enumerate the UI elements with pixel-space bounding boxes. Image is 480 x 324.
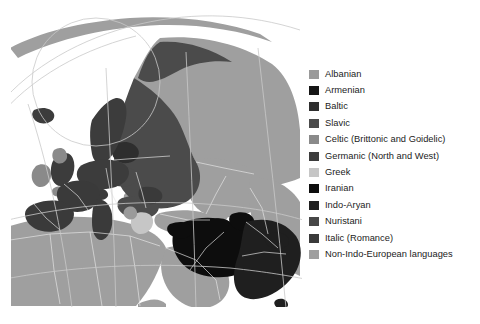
legend-swatch-nuristani xyxy=(308,216,320,227)
legend-item-slavic: Slavic xyxy=(308,115,478,131)
legend-label-germanic: Germanic (North and West) xyxy=(325,151,439,162)
legend-item-italic: Italic (Romance) xyxy=(308,230,478,246)
legend-swatch-albanian xyxy=(308,69,320,80)
legend-label-baltic: Baltic xyxy=(325,101,348,112)
legend-label-albanian: Albanian xyxy=(325,69,361,80)
legend-swatch-celtic xyxy=(308,134,320,145)
world-map-svg xyxy=(10,8,303,308)
legend-item-greek: Greek xyxy=(308,164,478,180)
legend-item-albanian: Albanian xyxy=(308,66,478,82)
legend-label-armenian: Armenian xyxy=(325,85,365,96)
map-panel xyxy=(10,8,303,308)
legend-label-nuristani: Nuristani xyxy=(325,216,362,227)
legend-label-italic: Italic (Romance) xyxy=(325,233,393,244)
legend-label-slavic: Slavic xyxy=(325,118,350,129)
legend-swatch-slavic xyxy=(308,118,320,129)
legend-label-iranian: Iranian xyxy=(325,183,354,194)
legend-swatch-baltic xyxy=(308,101,320,112)
legend-item-baltic: Baltic xyxy=(308,99,478,115)
legend-item-germanic: Germanic (North and West) xyxy=(308,148,478,164)
legend-item-iranian: Iranian xyxy=(308,181,478,197)
legend-item-non-indo-european: Non-Indo-European languages xyxy=(308,246,478,262)
legend-swatch-iranian xyxy=(308,183,320,194)
legend-label-greek: Greek xyxy=(325,167,350,178)
legend-item-indo-aryan: Indo-Aryan xyxy=(308,197,478,213)
legend-item-celtic: Celtic (Brittonic and Goidelic) xyxy=(308,132,478,148)
legend-label-celtic: Celtic (Brittonic and Goidelic) xyxy=(325,134,446,145)
legend-label-indo-aryan: Indo-Aryan xyxy=(325,200,371,211)
legend-swatch-greek xyxy=(308,167,320,178)
language-map-figure: Albanian Armenian Baltic Slavic Celtic (… xyxy=(0,0,480,324)
map-legend: Albanian Armenian Baltic Slavic Celtic (… xyxy=(308,66,478,263)
legend-swatch-italic xyxy=(308,233,320,244)
legend-swatch-non-indo-european xyxy=(308,249,320,260)
legend-item-armenian: Armenian xyxy=(308,82,478,98)
legend-label-non-indo-european: Non-Indo-European languages xyxy=(325,249,453,260)
legend-item-nuristani: Nuristani xyxy=(308,214,478,230)
legend-swatch-armenian xyxy=(308,85,320,96)
legend-swatch-indo-aryan xyxy=(308,200,320,211)
legend-swatch-germanic xyxy=(308,151,320,162)
